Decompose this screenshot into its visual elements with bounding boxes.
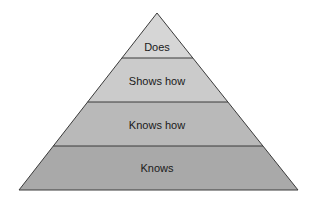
label-knows-how: Knows how: [129, 119, 185, 131]
label-knows: Knows: [140, 162, 174, 174]
pyramid-diagram: Does Shows how Knows how Knows: [0, 0, 310, 200]
label-does: Does: [144, 41, 170, 53]
label-shows-how: Shows how: [129, 75, 185, 87]
